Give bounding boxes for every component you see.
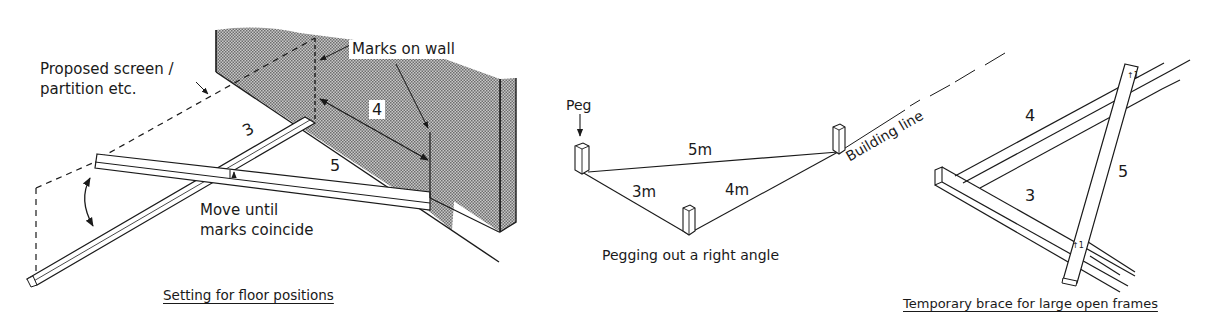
svg-text:↑1: ↑1 — [1072, 241, 1084, 250]
label-peg: Peg — [566, 96, 591, 115]
rotate-arrow — [85, 178, 93, 226]
label-5m: 5m — [688, 141, 712, 160]
label-brace-4: 4 — [1025, 106, 1035, 125]
figure-pegging — [575, 53, 1005, 235]
label-move-until-1: Move until — [200, 201, 278, 220]
brace-timber-3 — [935, 167, 1150, 292]
peg-left — [575, 143, 589, 174]
rope-4m — [688, 152, 838, 234]
label-marks-on-wall: Marks on wall — [349, 40, 458, 59]
label-brace-5: 5 — [1118, 162, 1128, 181]
brace-timber-4 — [955, 60, 1190, 188]
diagram-canvas: ↑1 ↑1 — [0, 0, 1218, 336]
rope-3m — [582, 172, 688, 234]
label-3m: 3m — [632, 183, 656, 202]
label-proposed-screen-1: Proposed screen / — [40, 60, 174, 79]
label-side-4: 4 — [369, 100, 385, 119]
label-side-5: 5 — [330, 156, 340, 175]
caption-brace: Temporary brace for large open frames — [903, 296, 1158, 311]
svg-text:↑1: ↑1 — [1127, 71, 1139, 80]
label-proposed-screen-2: partition etc. — [40, 80, 137, 99]
peg-middle — [683, 205, 695, 235]
figure-brace: ↑1 ↑1 — [935, 60, 1190, 292]
label-move-until-2: marks coincide — [200, 221, 314, 240]
label-4m: 4m — [725, 181, 749, 200]
caption-pegging: Pegging out a right angle — [602, 246, 779, 265]
caption-floor-positions: Setting for floor positions — [163, 287, 334, 303]
rope-5m — [588, 152, 838, 172]
label-brace-3: 3 — [1025, 186, 1035, 205]
